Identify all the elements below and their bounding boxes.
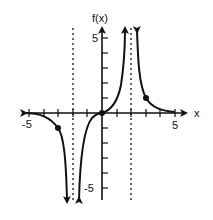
y-axis-label: f(x) — [92, 12, 108, 24]
function-graph: f(x) x -5 5 5 -5 — [0, 0, 213, 220]
y-min-label: -5 — [84, 182, 94, 194]
x-axis-label: x — [194, 107, 200, 119]
point-origin — [99, 110, 105, 116]
curve-right-branch — [137, 30, 175, 112]
point-pos3 — [143, 95, 149, 101]
x-max-label: 5 — [172, 119, 178, 131]
point-neg3 — [55, 125, 61, 131]
y-max-label: 5 — [92, 32, 98, 44]
x-min-label: -5 — [22, 118, 32, 130]
